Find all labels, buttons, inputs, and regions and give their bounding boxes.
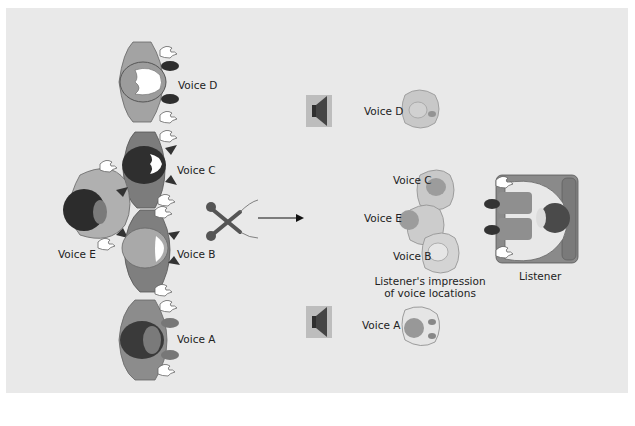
perceived-voice-a	[402, 307, 440, 346]
label-perceived-voice-a: Voice A	[362, 319, 400, 331]
caption-line-2: of voice locations	[370, 287, 490, 299]
caption-listener-impression: Listener's impression of voice locations	[370, 275, 490, 299]
performer-voice-b	[122, 206, 180, 296]
label-perceived-voice-b: Voice B	[393, 250, 431, 262]
label-perceived-voice-d: Voice D	[364, 105, 403, 117]
listener-figure	[484, 175, 578, 263]
label-voice-b: Voice B	[177, 248, 215, 260]
crossed-stereo-microphones-icon	[206, 200, 258, 241]
perceived-voice-d	[402, 90, 439, 128]
loudspeaker-bottom-icon	[306, 306, 332, 338]
performer-voice-e	[63, 160, 130, 250]
right-arrow-icon	[258, 214, 304, 222]
performer-voice-d	[119, 42, 179, 123]
label-perceived-voice-e: Voice E	[364, 212, 402, 224]
performer-voice-c	[122, 130, 177, 208]
label-voice-c: Voice C	[177, 164, 216, 176]
loudspeaker-top-icon	[306, 95, 332, 127]
performer-voice-a	[119, 300, 179, 380]
label-perceived-voice-c: Voice C	[393, 174, 432, 186]
diagram-scene	[0, 0, 635, 426]
label-voice-d: Voice D	[178, 79, 217, 91]
label-voice-e: Voice E	[58, 248, 96, 260]
label-listener: Listener	[519, 270, 561, 282]
caption-line-1: Listener's impression	[370, 275, 490, 287]
label-voice-a: Voice A	[177, 333, 215, 345]
